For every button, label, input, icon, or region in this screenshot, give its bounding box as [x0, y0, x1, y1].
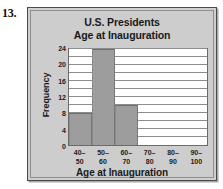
- question-number: 13.: [2, 6, 16, 21]
- chart-title-line-2: Age at Inauguration: [31, 29, 213, 42]
- x-axis-tick-label: 70–80: [138, 149, 161, 166]
- chart-panel: U.S. Presidents Age at Inauguration Freq…: [27, 7, 217, 181]
- plot-area-wrapper: [68, 48, 208, 146]
- y-axis-tick-label: 12: [58, 94, 66, 101]
- bar: [69, 113, 92, 145]
- x-axis-tick-label: 90–100: [185, 149, 208, 166]
- chart-title: U.S. Presidents Age at Inauguration: [31, 16, 213, 41]
- bar: [115, 105, 138, 145]
- bar-slot: [161, 49, 184, 145]
- y-axis-tick-label: 20: [58, 61, 66, 68]
- bar-slot: [184, 49, 207, 145]
- plot-area: [68, 48, 208, 146]
- y-axis-tick-label: 8: [62, 110, 66, 117]
- y-axis-tick-label: 0: [62, 143, 66, 150]
- bar-slot: [92, 49, 115, 145]
- x-axis-tick-label: 80–90: [161, 149, 184, 166]
- chart-figure: 13. U.S. Presidents Age at Inauguration …: [0, 0, 223, 189]
- chart-title-line-1: U.S. Presidents: [31, 16, 213, 29]
- bar-slot: [115, 49, 138, 145]
- bar-series: [69, 49, 207, 145]
- chart-panel-inner: U.S. Presidents Age at Inauguration Freq…: [30, 10, 214, 178]
- x-axis-tick-label: 50–60: [91, 149, 114, 166]
- x-axis-tick-labels: 40–5050–6060–7070–8080–9090–100: [68, 149, 208, 166]
- bar-slot: [69, 49, 92, 145]
- x-axis-title: Age at Inauguration: [31, 167, 213, 178]
- bar: [92, 49, 115, 145]
- bar-slot: [138, 49, 161, 145]
- x-axis-tick-label: 40–50: [68, 149, 91, 166]
- y-axis-tick-label: 16: [58, 77, 66, 84]
- y-axis-tick-label: 4: [62, 126, 66, 133]
- y-axis-tick-labels: 04812162024: [51, 48, 66, 146]
- y-axis-tick-label: 24: [58, 45, 66, 52]
- x-axis-tick-label: 60–70: [115, 149, 138, 166]
